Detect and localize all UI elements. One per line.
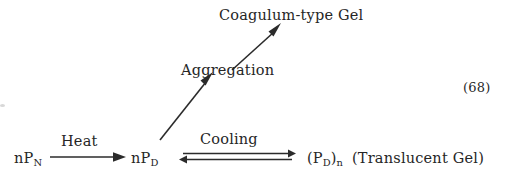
aggregation-arrow-lower — [160, 72, 213, 140]
intermediate-denatured-symbol: nP — [131, 150, 151, 166]
product-coagulum-gel: Coagulum-type Gel — [219, 8, 363, 23]
product-translucent-open: (P — [307, 150, 323, 166]
product-translucent-close-paren: ) — [331, 150, 337, 166]
product-translucent-gel-note: (Translucent Gel) — [352, 151, 484, 166]
reaction-scheme-diagram: Coagulum-type Gel Aggregation (68) Heat … — [0, 0, 510, 180]
reactant-native-subscript: N — [34, 157, 43, 168]
reactant-native-symbol: nP — [14, 150, 34, 166]
heat-arrow — [50, 152, 126, 162]
heat-label: Heat — [61, 134, 98, 149]
product-translucent-subscript-n: n — [337, 157, 343, 168]
cooling-label: Cooling — [200, 132, 258, 147]
equation-number: (68) — [463, 81, 491, 94]
product-translucent-subscript-d: D — [323, 157, 331, 168]
reactant-native-protein: nPN — [14, 151, 42, 166]
cooling-equilibrium-arrow — [179, 149, 296, 163]
intermediate-denatured-subscript: D — [151, 157, 159, 168]
aggregation-label: Aggregation — [181, 63, 274, 78]
intermediate-denatured-protein: nPD — [131, 151, 158, 166]
product-translucent-gel: (PD)n — [307, 151, 343, 166]
